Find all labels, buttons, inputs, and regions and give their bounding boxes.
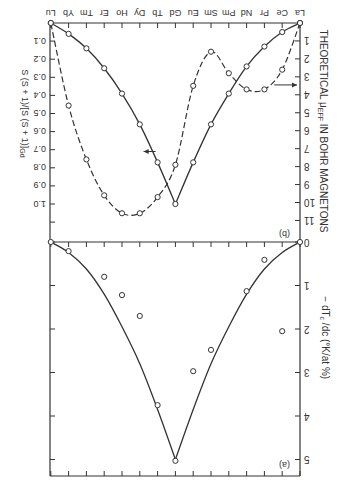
dtc-data-point bbox=[48, 239, 53, 244]
dtc-tick-label: 2 bbox=[304, 324, 310, 335]
element-label: Nd bbox=[241, 8, 253, 18]
mu-eff-point bbox=[66, 103, 71, 108]
ratio-point bbox=[226, 91, 231, 96]
ratio-point bbox=[137, 122, 142, 127]
element-label: Pm bbox=[222, 8, 236, 18]
rotated-figure: LaCePrNdPmSmEuGdTbDyHoErTmYbLu1234567891… bbox=[19, 8, 331, 476]
mu-tick-label: 6 bbox=[304, 125, 310, 136]
dtc-fit-curve-light bbox=[175, 242, 300, 460]
ratio-point bbox=[244, 64, 249, 69]
ratio-tick-label: 0.7 bbox=[33, 144, 46, 154]
dtc-tick-label: 4 bbox=[304, 411, 310, 422]
element-label: Tb bbox=[152, 8, 163, 18]
dtc-tick-label: 5 bbox=[304, 454, 310, 465]
element-label: Yb bbox=[63, 8, 74, 18]
dtc-tick-label: 0 bbox=[304, 237, 310, 248]
chart-svg: LaCePrNdPmSmEuGdTbDyHoErTmYbLu1234567891… bbox=[0, 0, 345, 491]
mu-tick-label: 8 bbox=[304, 161, 310, 172]
mu-eff-point bbox=[102, 193, 107, 198]
mu-eff-point bbox=[208, 49, 213, 54]
dtc-data-point bbox=[280, 329, 285, 334]
ratio-point bbox=[155, 160, 160, 165]
mu-eff-point bbox=[226, 71, 231, 76]
element-label: Ce bbox=[276, 8, 288, 18]
dtc-tick-label: 1 bbox=[304, 280, 310, 291]
mu-tick-label: 4 bbox=[304, 89, 310, 100]
element-label: Er bbox=[100, 8, 109, 18]
dtc-data-point bbox=[137, 313, 142, 318]
ratio-tick-label: 0.3 bbox=[33, 72, 46, 82]
mu-eff-point bbox=[48, 20, 53, 25]
ratio-point bbox=[191, 160, 196, 165]
ratio-tick-label: 0.1 bbox=[33, 36, 46, 46]
element-label: La bbox=[295, 8, 305, 18]
element-label: Tm bbox=[80, 8, 93, 18]
ratio-point bbox=[173, 201, 178, 206]
mu-eff-point bbox=[119, 211, 124, 216]
element-label: Ho bbox=[116, 8, 128, 18]
mu-tick-label: 2 bbox=[304, 53, 310, 64]
mu-tick-label: 11 bbox=[304, 215, 315, 226]
ratio-tick-label: 0.6 bbox=[33, 126, 46, 136]
dtc-data-point bbox=[244, 289, 249, 294]
mu-eff-point bbox=[280, 67, 285, 72]
ratio-tick-label: 1.0 bbox=[33, 199, 46, 209]
element-label: Dy bbox=[134, 8, 145, 18]
mu-eff-point bbox=[155, 195, 160, 200]
ratio-tick-label: 0.5 bbox=[33, 108, 46, 118]
ratio-curve-light bbox=[175, 23, 300, 204]
ratio-point bbox=[119, 91, 124, 96]
ratio-axis-title: S (S + 1)/[S (S + 1)]Gd bbox=[19, 69, 30, 157]
panel-a-label: (a) bbox=[279, 460, 290, 470]
panel-a: 012345(a)− dTc /dc (°K/at %) bbox=[48, 237, 331, 477]
mu-tick-label: 7 bbox=[304, 143, 310, 154]
ratio-point bbox=[280, 29, 285, 34]
figure: LaCePrNdPmSmEuGdTbDyHoErTmYbLu1234567891… bbox=[0, 0, 345, 491]
dtc-data-point bbox=[102, 274, 107, 279]
mu-eff-point bbox=[262, 87, 267, 92]
mu-tick-label: 10 bbox=[304, 197, 316, 208]
ratio-curve-heavy bbox=[51, 23, 176, 204]
mu-eff-point bbox=[84, 157, 89, 162]
dtc-data-point bbox=[208, 347, 213, 352]
mu-eff-point bbox=[173, 162, 178, 167]
dtc-data-point bbox=[297, 239, 302, 244]
element-label: Sm bbox=[204, 8, 218, 18]
element-label: Gd bbox=[169, 8, 181, 18]
ratio-point bbox=[262, 44, 267, 49]
ratio-point bbox=[208, 122, 213, 127]
mu-eff-point bbox=[297, 20, 302, 25]
panel-b: LaCePrNdPmSmEuGdTbDyHoErTmYbLu1234567891… bbox=[19, 8, 329, 239]
mu-eff-point bbox=[191, 83, 196, 88]
ratio-tick-label: 0.4 bbox=[33, 90, 46, 100]
panel-b-label: (b) bbox=[279, 229, 290, 239]
dtc-tick-label: 3 bbox=[304, 367, 310, 378]
ratio-tick-label: 0.2 bbox=[33, 54, 46, 64]
mu-tick-label: 9 bbox=[304, 179, 310, 190]
mu-tick-label: 5 bbox=[304, 107, 310, 118]
mu-eff-point bbox=[137, 211, 142, 216]
mu-eff-point bbox=[244, 87, 249, 92]
ratio-point bbox=[102, 66, 107, 71]
dtc-fit-curve-heavy bbox=[51, 242, 176, 460]
mu-tick-label: 3 bbox=[304, 71, 310, 82]
element-label: Pr bbox=[260, 8, 269, 18]
element-label: Eu bbox=[188, 8, 199, 18]
ratio-tick-label: 0.9 bbox=[33, 180, 46, 190]
ratio-point bbox=[66, 31, 71, 36]
dtc-data-point bbox=[262, 257, 267, 262]
dtc-data-point bbox=[191, 369, 196, 374]
dtc-data-point bbox=[119, 292, 124, 297]
ratio-tick-label: 0.8 bbox=[33, 162, 46, 172]
ratio-point bbox=[84, 46, 89, 51]
mu-tick-label: 1 bbox=[304, 35, 310, 46]
mu-eff-curve bbox=[51, 23, 300, 215]
element-label: Lu bbox=[46, 8, 56, 18]
dtc-axis-title: − dTc /dc (°K/at %) bbox=[319, 296, 331, 379]
mu-eff-axis-title: THEORETICAL μEFF IN BOHR MAGNETONS bbox=[317, 30, 329, 233]
dtc-data-point bbox=[66, 249, 71, 254]
dtc-data-point bbox=[155, 403, 160, 408]
dtc-data-point bbox=[173, 458, 178, 463]
